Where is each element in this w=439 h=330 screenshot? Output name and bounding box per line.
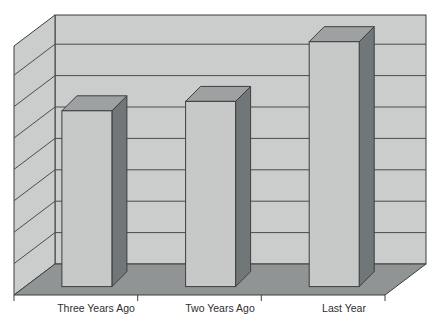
category-labels: Three Years Ago Two Years Ago Last Year	[57, 302, 366, 314]
bar-chart-3d: Three Years Ago Two Years Ago Last Year	[0, 0, 439, 330]
category-label-last-year: Last Year	[322, 302, 366, 314]
bar-front-face	[62, 111, 112, 287]
bar-side-face	[359, 27, 374, 287]
bar-side-face	[112, 96, 127, 287]
category-label-three-years-ago: Three Years Ago	[57, 302, 135, 314]
chart-figure: Three Years Ago Two Years Ago Last Year	[0, 0, 439, 330]
bar	[186, 86, 251, 286]
bar-front-face	[309, 42, 359, 287]
bar	[62, 96, 127, 287]
category-label-two-years-ago: Two Years Ago	[185, 302, 255, 314]
bar	[309, 27, 374, 287]
left-wall	[14, 15, 55, 295]
category-axis-ticks	[14, 295, 385, 301]
bar-side-face	[236, 86, 251, 286]
bar-front-face	[186, 101, 236, 286]
